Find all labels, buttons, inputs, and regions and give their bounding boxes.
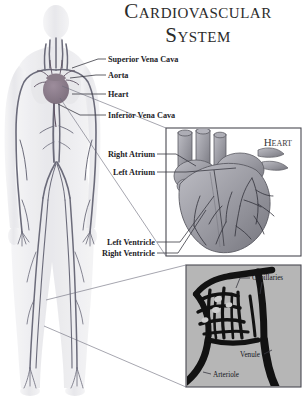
label-left-atrium: Left Atrium (113, 168, 155, 177)
label-superior-vena-cava: Superior Vena Cava (108, 55, 178, 64)
page-title-line1: Cardiovascular (124, 0, 271, 23)
label-left-ventricle: Left Ventricle (107, 238, 155, 247)
text-layer: Cardiovascular System Superior Vena Cava… (0, 0, 303, 398)
page-title-line2: System (165, 23, 231, 47)
figure-canvas: Heart (0, 0, 303, 398)
label-heart: Heart (108, 90, 129, 99)
label-arteriole: Arteriole (213, 371, 239, 379)
label-right-ventricle: Right Ventricle (102, 249, 155, 258)
label-right-atrium: Right Atrium (108, 150, 155, 159)
capillary-inset-labels: Capillaries Venule Arteriole (203, 274, 283, 379)
label-aorta: Aorta (108, 71, 128, 80)
label-venule: Venule (240, 351, 260, 359)
label-inferior-vena-cava: Inferior Vena Cava (108, 111, 175, 120)
label-capillaries: Capillaries (252, 274, 283, 282)
